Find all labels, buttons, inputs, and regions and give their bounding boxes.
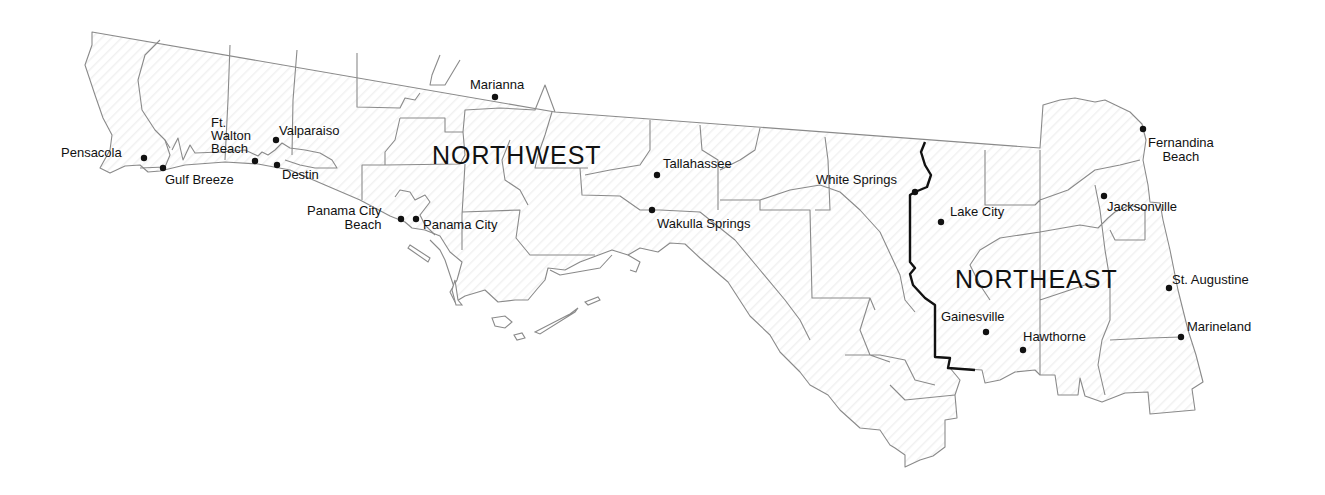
city-dot-gulf-breeze[interactable] bbox=[160, 165, 166, 171]
city-dot-lake-city[interactable] bbox=[938, 219, 944, 225]
city-dot-white-springs[interactable] bbox=[912, 189, 918, 195]
city-label-gainesville[interactable]: Gainesville bbox=[941, 310, 1005, 324]
city-dot-panama-city[interactable] bbox=[413, 216, 419, 222]
map-canvas bbox=[0, 0, 1325, 495]
island bbox=[535, 308, 578, 334]
city-dot-destin[interactable] bbox=[274, 162, 280, 168]
city-dot-fernandina-beach[interactable] bbox=[1140, 126, 1146, 132]
city-label-fernandina-beach[interactable]: Fernandina Beach bbox=[1148, 136, 1214, 164]
island bbox=[514, 333, 525, 340]
city-label-valparaiso[interactable]: Valparaiso bbox=[279, 124, 339, 138]
island bbox=[408, 245, 430, 262]
city-label-panama-city[interactable]: Panama City bbox=[423, 218, 497, 232]
city-dot-gainesville[interactable] bbox=[983, 329, 989, 335]
city-label-st-augustine[interactable]: St. Augustine bbox=[1172, 273, 1249, 287]
city-dot-marianna[interactable] bbox=[492, 94, 498, 100]
region-label-northwest: NORTHWEST bbox=[432, 141, 602, 170]
city-label-destin[interactable]: Destin bbox=[282, 168, 319, 182]
city-dot-ft-walton-beach[interactable] bbox=[252, 158, 258, 164]
city-label-marineland[interactable]: Marineland bbox=[1187, 320, 1251, 334]
city-label-pensacola[interactable]: Pensacola bbox=[61, 146, 122, 160]
region-label-northeast: NORTHEAST bbox=[955, 265, 1118, 294]
island bbox=[492, 316, 512, 328]
city-label-hawthorne[interactable]: Hawthorne bbox=[1023, 330, 1086, 344]
city-dot-hawthorne[interactable] bbox=[1020, 347, 1026, 353]
city-label-ft-walton-beach[interactable]: Ft. Walton Beach bbox=[211, 116, 251, 155]
city-label-jacksonville[interactable]: Jacksonville bbox=[1107, 200, 1177, 214]
city-dot-wakulla-springs[interactable] bbox=[649, 207, 655, 213]
city-label-white-springs[interactable]: White Springs bbox=[816, 173, 897, 187]
city-dot-marineland[interactable] bbox=[1178, 334, 1184, 340]
city-label-lake-city[interactable]: Lake City bbox=[950, 205, 1004, 219]
city-label-wakulla-springs[interactable]: Wakulla Springs bbox=[657, 217, 750, 231]
city-label-marianna[interactable]: Marianna bbox=[470, 78, 524, 92]
island bbox=[585, 297, 600, 305]
city-label-tallahassee[interactable]: Tallahassee bbox=[663, 157, 732, 171]
city-dot-pensacola[interactable] bbox=[141, 155, 147, 161]
landmass-outline bbox=[85, 32, 1203, 467]
city-dot-panama-city-beach[interactable] bbox=[398, 216, 404, 222]
city-label-gulf-breeze[interactable]: Gulf Breeze bbox=[165, 173, 234, 187]
city-dot-tallahassee[interactable] bbox=[654, 172, 660, 178]
florida-north-map: NORTHWEST NORTHEAST Pensacola Gulf Breez… bbox=[0, 0, 1325, 495]
city-label-panama-city-beach[interactable]: Panama City Beach bbox=[307, 204, 381, 232]
